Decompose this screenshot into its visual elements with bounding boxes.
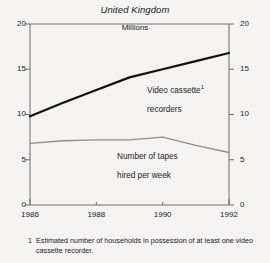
x-tick-label-1986: 1986 bbox=[10, 211, 50, 220]
series-label-vcr: Video cassette1 recorders bbox=[138, 77, 204, 123]
chart-footnote: 1 Estimated number of households in poss… bbox=[28, 236, 264, 257]
y-tick-label-right-20: 20 bbox=[240, 20, 262, 29]
x-tick-label-1988: 1988 bbox=[76, 211, 116, 220]
y-tick-label-right-15: 15 bbox=[240, 65, 262, 74]
footnote-marker: 1 bbox=[28, 236, 32, 246]
y-tick-label-right-10: 10 bbox=[240, 110, 262, 119]
y-tick-label-left-0: 0 bbox=[4, 201, 26, 210]
plot-area bbox=[0, 0, 270, 263]
series-label-vcr-footnote-marker: 1 bbox=[201, 84, 204, 90]
y-tick-label-right-0: 0 bbox=[240, 201, 262, 210]
series-label-tapes-line2: hired per week bbox=[117, 171, 171, 180]
series-label-vcr-line1: Video cassette bbox=[147, 86, 201, 95]
y-axis-right-ticks bbox=[229, 24, 234, 205]
series-label-tapes: Number of tapes hired per week bbox=[108, 143, 178, 189]
y-tick-label-right-5: 5 bbox=[240, 156, 262, 165]
series-label-vcr-line2: recorders bbox=[147, 105, 182, 114]
x-axis-ticks bbox=[30, 199, 229, 205]
y-tick-label-left-5: 5 bbox=[4, 156, 26, 165]
y-tick-label-left-20: 20 bbox=[4, 20, 26, 29]
x-tick-label-1992: 1992 bbox=[209, 211, 249, 220]
y-tick-label-left-10: 10 bbox=[4, 110, 26, 119]
series-label-tapes-line1: Number of tapes bbox=[117, 152, 178, 161]
footnote-text: Estimated number of households in posses… bbox=[28, 236, 264, 257]
chart-figure: United Kingdom Millions bbox=[0, 0, 270, 263]
y-tick-label-left-15: 15 bbox=[4, 65, 26, 74]
x-tick-label-1990: 1990 bbox=[143, 211, 183, 220]
